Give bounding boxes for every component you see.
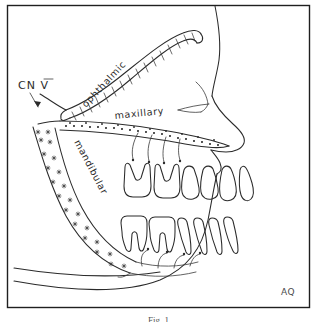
artist-signature: AQ [281,287,295,297]
ophthalmic-division [61,30,203,120]
superior-alveolar-branches [132,133,181,164]
upper-teeth-row [124,163,253,200]
label-cn-v: CN V [18,79,49,92]
mandibular-division [33,127,201,277]
lower-teeth-row [121,216,238,255]
label-maxillary: maxillary [114,105,164,121]
label-ophthalmic: ophthalmic [79,59,127,110]
figure-container: CN V ophthalmic maxillary mandibular AQ … [0,0,317,322]
label-mandibular: mandibular [72,138,110,196]
maxillary-stipple [65,122,219,146]
cn-v-pointer [30,93,41,107]
figure-caption: Fig. 1 [0,314,317,322]
trigeminal-nerve-diagram: CN V ophthalmic maxillary mandibular AQ [0,0,317,322]
orbital-detail-lines [178,82,209,112]
